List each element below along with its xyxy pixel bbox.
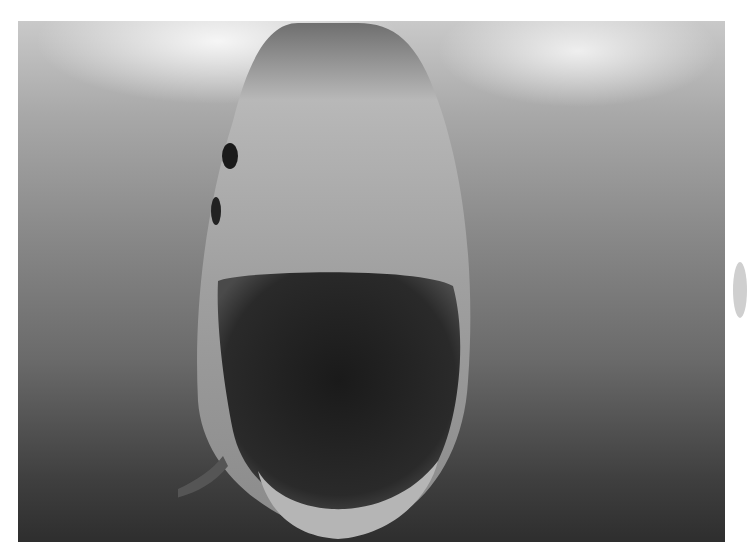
page-edge-arc bbox=[733, 262, 747, 318]
shark-photo bbox=[18, 21, 725, 542]
shark-silhouette bbox=[178, 21, 478, 542]
